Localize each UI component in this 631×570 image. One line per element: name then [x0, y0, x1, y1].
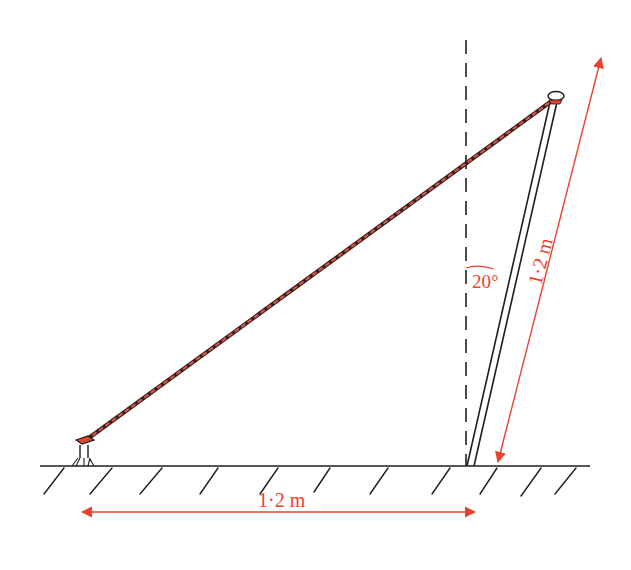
- pole-length-label: 1·2 m: [524, 235, 557, 287]
- ground-hatching: [44, 468, 576, 496]
- ground-peg: [72, 436, 94, 466]
- guy-rope: [86, 100, 553, 440]
- pole-top-cap: [548, 92, 564, 105]
- angle-label: 20°: [472, 271, 499, 292]
- angle-arc: [466, 266, 494, 269]
- ground: [40, 466, 590, 496]
- pole-guy-rope-diagram: 20° 1·2 m 1·2 m: [0, 0, 631, 570]
- ground-distance-label: 1·2 m: [258, 489, 306, 511]
